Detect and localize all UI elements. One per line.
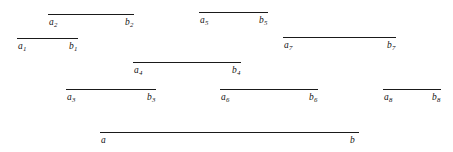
interval-line-3 bbox=[66, 89, 156, 90]
endpoint-label-b6: b6 bbox=[309, 93, 317, 103]
endpoint-label-a: a bbox=[101, 136, 106, 146]
endpoint-label-b: b bbox=[350, 136, 355, 146]
endpoint-label-a4: a4 bbox=[134, 66, 142, 76]
interval-line-1 bbox=[17, 38, 78, 39]
endpoint-label-a7: a7 bbox=[284, 41, 292, 51]
endpoint-label-b5: b5 bbox=[259, 16, 267, 26]
endpoint-label-a6: a6 bbox=[221, 93, 229, 103]
interval-line-2 bbox=[48, 14, 134, 15]
endpoint-label-a8: a8 bbox=[384, 93, 392, 103]
endpoint-label-b4: b4 bbox=[232, 66, 240, 76]
endpoint-label-a1: a1 bbox=[18, 42, 26, 52]
endpoint-label-b2: b2 bbox=[125, 18, 133, 28]
endpoint-label-b1: b1 bbox=[69, 42, 77, 52]
endpoint-label-a5: a5 bbox=[200, 16, 208, 26]
interval-line-5 bbox=[199, 12, 268, 13]
interval-line-4 bbox=[133, 62, 241, 63]
interval-segments-figure: a2b2a5b5a1b1a7b7a4b4a3b3a6b6a8b8ab bbox=[0, 0, 453, 152]
endpoint-label-b8: b8 bbox=[432, 93, 440, 103]
interval-line-main bbox=[100, 132, 359, 133]
interval-line-6 bbox=[220, 89, 318, 90]
endpoint-label-a2: a2 bbox=[49, 18, 57, 28]
endpoint-label-a3: a3 bbox=[67, 93, 75, 103]
endpoint-label-b7: b7 bbox=[387, 41, 395, 51]
endpoint-label-b3: b3 bbox=[147, 93, 155, 103]
interval-line-7 bbox=[283, 37, 396, 38]
interval-line-8 bbox=[383, 89, 441, 90]
